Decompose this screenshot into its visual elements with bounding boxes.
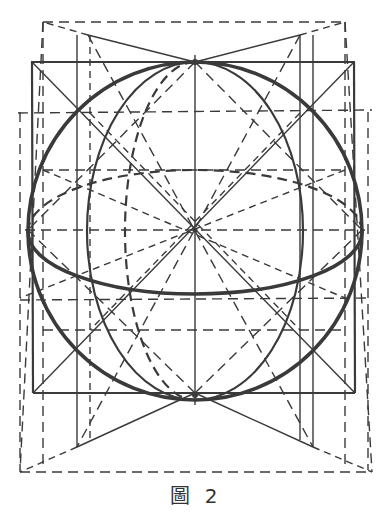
solid-box (31, 35, 355, 447)
diagonal-guides (20, 22, 372, 472)
outer-dashed-box (20, 22, 372, 472)
sphere-cube-construction-diagram (0, 0, 392, 480)
figure-caption: 圖 2 (0, 480, 392, 509)
